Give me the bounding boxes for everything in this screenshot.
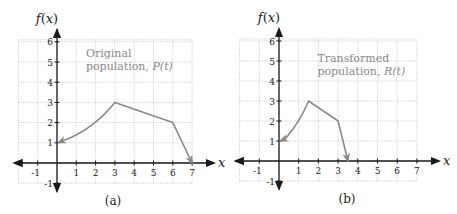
x-tick-label: 3 bbox=[335, 166, 341, 176]
chart-figure: -11234567-1123456f(x)xOriginalpopulation… bbox=[0, 0, 457, 214]
x-tick-label: 7 bbox=[189, 168, 195, 178]
x-tick-label: 4 bbox=[131, 168, 137, 178]
series-line bbox=[285, 101, 348, 161]
x-tick-label: -1 bbox=[253, 166, 262, 176]
x-tick-label: 2 bbox=[93, 168, 99, 178]
x-axis-label: x bbox=[218, 155, 226, 170]
panel-a: -11234567-1123456f(x)xOriginalpopulation… bbox=[14, 11, 226, 208]
panel-label: (b) bbox=[338, 192, 355, 206]
x-tick-label: 1 bbox=[73, 168, 79, 178]
y-tick-label: 1 bbox=[47, 138, 53, 148]
x-tick-label: 7 bbox=[414, 166, 420, 176]
x-tick-label: 2 bbox=[316, 166, 322, 176]
x-tick-label: 6 bbox=[170, 168, 176, 178]
y-tick-label: 4 bbox=[269, 77, 275, 87]
y-tick-label: 4 bbox=[47, 78, 53, 88]
y-tick-label: 3 bbox=[47, 98, 53, 108]
y-axis-label: f(x) bbox=[257, 10, 280, 25]
y-axis-label: f(x) bbox=[35, 11, 58, 26]
x-tick-label: 3 bbox=[112, 168, 118, 178]
y-tick-label: 6 bbox=[269, 37, 275, 47]
x-axis-label: x bbox=[443, 153, 451, 168]
x-tick-label: 6 bbox=[394, 166, 400, 176]
x-tick-label: 5 bbox=[151, 168, 157, 178]
x-tick-label: -1 bbox=[31, 168, 40, 178]
y-tick-label: 1 bbox=[269, 137, 275, 147]
x-tick-label: 5 bbox=[375, 166, 381, 176]
panel-b: -11234567-1123456f(x)xTransformedpopulat… bbox=[236, 10, 451, 206]
y-tick-label: 6 bbox=[47, 37, 53, 47]
y-tick-label: 5 bbox=[269, 57, 275, 67]
panel-label: (a) bbox=[105, 194, 122, 208]
series-annotation: Transformedpopulation, R(t) bbox=[317, 52, 405, 78]
x-tick-label: 1 bbox=[296, 166, 302, 176]
y-tick-label: 2 bbox=[269, 117, 275, 127]
y-tick-label: -1 bbox=[44, 179, 53, 189]
y-tick-label: 3 bbox=[269, 97, 275, 107]
x-tick-label: 4 bbox=[355, 166, 361, 176]
y-tick-label: -1 bbox=[266, 177, 275, 187]
y-tick-label: 2 bbox=[47, 118, 53, 128]
y-tick-label: 5 bbox=[47, 58, 53, 68]
series-annotation: Originalpopulation, P(t) bbox=[86, 47, 173, 73]
